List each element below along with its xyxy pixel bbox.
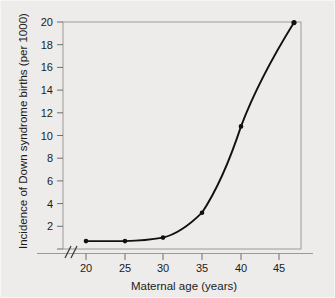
y-tick-labels: 2 4 6 8 10 12 14 16 18 20 — [41, 16, 53, 232]
x-tick-labels: 20 25 30 35 40 45 — [80, 262, 285, 274]
x-tick-label: 35 — [196, 262, 208, 274]
figure-panel: 2 4 6 8 10 12 14 16 18 20 — [0, 0, 335, 298]
y-tick-label: 10 — [41, 130, 53, 142]
y-tick-label: 14 — [41, 84, 53, 96]
x-tick-label: 40 — [235, 262, 247, 274]
y-tick-label: 8 — [47, 152, 53, 164]
data-point — [123, 239, 128, 244]
chart-canvas: 2 4 6 8 10 12 14 16 18 20 — [1, 1, 335, 298]
data-point — [161, 235, 166, 240]
data-point — [239, 124, 244, 129]
x-tick-label: 30 — [157, 262, 169, 274]
y-tick-label: 6 — [47, 175, 53, 187]
y-tick-label: 12 — [41, 107, 53, 119]
x-tick-label: 45 — [273, 262, 285, 274]
x-axis-title: Maternal age (years) — [131, 280, 237, 292]
data-point — [84, 239, 89, 244]
y-tick-label: 18 — [41, 39, 53, 51]
data-point-markers — [84, 20, 297, 243]
x-tick-label: 25 — [119, 262, 131, 274]
y-tick-label: 2 — [47, 220, 53, 232]
y-axis-title: Incidence of Down syndrome births (per 1… — [17, 13, 29, 249]
data-point — [291, 20, 296, 25]
plot-frame — [63, 22, 301, 249]
y-tick-label: 4 — [47, 198, 53, 210]
data-line-series — [86, 23, 294, 242]
x-axis-ticks — [86, 254, 279, 261]
y-tick-label: 16 — [41, 61, 53, 73]
y-axis-ticks — [57, 22, 63, 249]
axis-break-icon — [65, 246, 77, 258]
data-point — [200, 210, 205, 215]
x-tick-label: 20 — [80, 262, 92, 274]
y-tick-label: 20 — [41, 16, 53, 28]
